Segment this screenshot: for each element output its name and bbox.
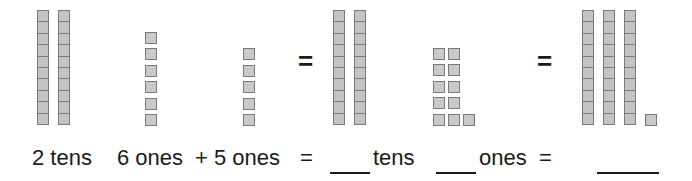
ones-unit — [145, 32, 157, 44]
rod-unit — [624, 78, 636, 89]
rod-unit — [603, 67, 615, 78]
rod-unit — [58, 44, 70, 55]
ones-unit — [448, 114, 460, 126]
ones-unit — [448, 81, 460, 93]
tens-rod — [603, 10, 615, 125]
rod-unit — [603, 90, 615, 101]
rod-unit — [624, 10, 636, 21]
tens-rod — [354, 10, 366, 125]
rod-unit — [582, 113, 594, 125]
tens-label-2: 2 tens — [32, 147, 92, 169]
ones-unit — [145, 114, 157, 126]
rod-unit — [58, 101, 70, 112]
rod-unit — [333, 101, 345, 112]
total-answer-blank[interactable] — [597, 172, 659, 174]
rod-unit — [37, 10, 49, 21]
rod-unit — [37, 90, 49, 101]
rod-unit — [333, 44, 345, 55]
rod-unit — [624, 56, 636, 67]
rod-unit — [582, 44, 594, 55]
rod-unit — [624, 113, 636, 125]
ones-unit — [448, 97, 460, 109]
rod-unit — [354, 90, 366, 101]
equals-sign: = — [298, 48, 313, 74]
ones-unit — [463, 114, 475, 126]
rod-unit — [582, 67, 594, 78]
ones-unit — [645, 114, 657, 126]
plus-sign: + — [195, 147, 208, 169]
ones-unit — [448, 48, 460, 60]
rod-unit — [354, 44, 366, 55]
equals-text: = — [539, 147, 552, 169]
tens-word: tens — [373, 147, 415, 169]
rod-unit — [333, 78, 345, 89]
rod-unit — [354, 101, 366, 112]
rod-unit — [37, 33, 49, 44]
rod-unit — [333, 21, 345, 32]
rod-unit — [624, 21, 636, 32]
tens-answer-blank[interactable] — [330, 172, 370, 174]
ones-unit — [145, 81, 157, 93]
rod-unit — [333, 56, 345, 67]
rod-unit — [603, 21, 615, 32]
equals-text: = — [300, 147, 313, 169]
rod-unit — [354, 56, 366, 67]
tens-rod — [37, 10, 49, 125]
ones-word: ones — [479, 147, 527, 169]
rod-unit — [354, 33, 366, 44]
rod-unit — [603, 44, 615, 55]
ones-unit — [243, 65, 255, 77]
rod-unit — [603, 113, 615, 125]
rod-unit — [58, 56, 70, 67]
rod-unit — [333, 67, 345, 78]
tens-rod — [582, 10, 594, 125]
rod-unit — [624, 90, 636, 101]
rod-unit — [58, 113, 70, 125]
tens-rod — [333, 10, 345, 125]
rod-unit — [37, 113, 49, 125]
rod-unit — [582, 90, 594, 101]
rod-unit — [582, 33, 594, 44]
rod-unit — [624, 44, 636, 55]
rod-unit — [37, 78, 49, 89]
rod-unit — [603, 10, 615, 21]
rod-unit — [582, 56, 594, 67]
rod-unit — [603, 78, 615, 89]
rod-unit — [37, 44, 49, 55]
rod-unit — [58, 67, 70, 78]
ones-unit — [243, 48, 255, 60]
rod-unit — [333, 113, 345, 125]
rod-unit — [582, 101, 594, 112]
rod-unit — [603, 56, 615, 67]
rod-unit — [624, 101, 636, 112]
equals-sign: = — [537, 48, 552, 74]
ones-unit — [448, 64, 460, 76]
rod-unit — [582, 78, 594, 89]
ones-unit — [243, 114, 255, 126]
ones-unit — [243, 81, 255, 93]
rod-unit — [37, 67, 49, 78]
ones-answer-blank[interactable] — [436, 172, 476, 174]
ones-label-5: 5 ones — [214, 147, 280, 169]
rod-unit — [354, 21, 366, 32]
rod-unit — [58, 90, 70, 101]
ones-unit — [433, 114, 445, 126]
ones-label-6: 6 ones — [117, 147, 183, 169]
rod-unit — [37, 21, 49, 32]
rod-unit — [58, 33, 70, 44]
rod-unit — [603, 33, 615, 44]
rod-unit — [58, 10, 70, 21]
ones-unit — [433, 64, 445, 76]
ones-unit — [145, 48, 157, 60]
ones-unit — [145, 98, 157, 110]
rod-unit — [582, 21, 594, 32]
tens-rod — [58, 10, 70, 125]
ones-unit — [145, 65, 157, 77]
rod-unit — [603, 101, 615, 112]
ones-unit — [433, 48, 445, 60]
tens-rod — [624, 10, 636, 125]
rod-unit — [624, 33, 636, 44]
rod-unit — [354, 113, 366, 125]
rod-unit — [58, 21, 70, 32]
rod-unit — [333, 90, 345, 101]
